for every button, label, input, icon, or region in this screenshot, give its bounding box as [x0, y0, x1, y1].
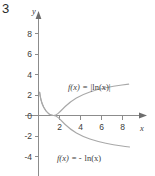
x-tick-label-8: 8 [120, 122, 125, 132]
upper-label-eq: = [83, 82, 88, 92]
x-tick-label-2: 2 [57, 122, 62, 132]
y-tick-label-neg2: -2 [24, 131, 32, 141]
y-axis-ticks [35, 34, 39, 157]
plot-svg: 8 6 4 2 0 -2 -4 2 4 6 8 y x f(x)=|ln(x)|… [0, 0, 155, 176]
figure-container: 3 8 6 4 2 0 -2 -4 [0, 0, 155, 176]
function-label-upper: f(x)=|ln(x)| [68, 82, 111, 92]
x-tick-label-6: 6 [99, 122, 104, 132]
y-tick-label-2: 2 [27, 90, 32, 100]
lower-label-eq: = - [72, 153, 82, 163]
lower-label-expr: ln(x) [85, 153, 102, 163]
y-axis-arrow-icon [36, 11, 42, 19]
x-tick-label-4: 4 [78, 122, 83, 132]
function-label-lower: f(x)= -ln(x) [57, 153, 101, 163]
y-tick-label-neg4: -4 [24, 152, 32, 162]
upper-label-expr: |ln(x)| [91, 82, 111, 92]
y-tick-label-0: 0 [27, 111, 32, 121]
y-axis-label: y [31, 6, 36, 16]
y-tick-label-6: 6 [27, 49, 32, 59]
x-axis-arrow-icon [139, 113, 147, 119]
svg-text:f(x)=|ln(x)|: f(x)=|ln(x)| [68, 82, 111, 92]
svg-text:f(x)= -ln(x): f(x)= -ln(x) [57, 153, 101, 163]
y-tick-label-8: 8 [27, 29, 32, 39]
curve-neg-ln [40, 92, 130, 147]
x-axis-ticks [60, 116, 123, 121]
y-tick-label-4: 4 [27, 70, 32, 80]
upper-label-fx: f(x) [68, 82, 80, 92]
lower-label-fx: f(x) [57, 153, 69, 163]
x-axis-label: x [139, 123, 144, 133]
